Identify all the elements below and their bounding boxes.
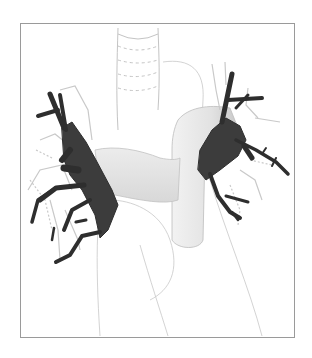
- trachea: [117, 28, 159, 130]
- anatomy-illustration: [0, 0, 312, 358]
- right-pulmonary-veins: [198, 74, 288, 220]
- left-pulmonary-veins: [32, 94, 118, 262]
